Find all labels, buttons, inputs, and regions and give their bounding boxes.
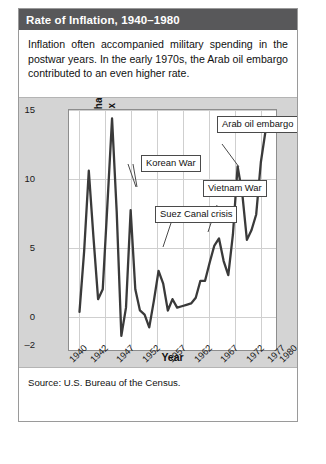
chart-svg: [69, 110, 276, 350]
chart-panel: 15 10 5 0 –2 Annual percentage rate of c…: [19, 98, 297, 368]
y-tick-label-5: 5: [19, 242, 35, 253]
source-note: Source: U.S. Bureau of the Census.: [19, 368, 297, 388]
plot-area: [68, 109, 277, 351]
leader-suez: [163, 223, 171, 247]
inflation-line: [80, 118, 266, 335]
annotation-korean-war: Korean War: [141, 155, 201, 172]
y-tick-label-15: 15: [19, 104, 35, 115]
figure-title-bar: Rate of Inflation, 1940–1980: [19, 9, 297, 30]
figure-card: Rate of Inflation, 1940–1980 Inflation o…: [18, 8, 298, 422]
leader-arab-embargo: [222, 144, 239, 167]
y-tick-label-0: 0: [19, 311, 35, 322]
page-title: Rate of Inflation, 1940–1980: [26, 14, 180, 26]
annotation-arab-oil-embargo: Arab oil embargo: [217, 116, 297, 133]
x-axis-title: Year: [68, 351, 277, 363]
y-tick-label-10: 10: [19, 173, 35, 184]
y-tick-label-neg2: –2: [19, 339, 35, 350]
annotation-vietnam-war: Vietnam War: [203, 180, 267, 197]
annotation-suez-canal-crisis: Suez Canal crisis: [155, 206, 237, 223]
intro-paragraph: Inflation often accompanied military spe…: [19, 30, 297, 98]
